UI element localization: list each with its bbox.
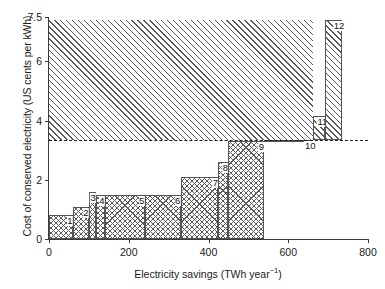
y-axis-tick — [45, 17, 49, 18]
x-axis-tick — [368, 239, 369, 243]
supply-curve-figure: Cost of conserved electricity (US cents … — [0, 0, 385, 289]
upper-hatched-region — [49, 20, 313, 140]
x-axis-title-tail: ) — [278, 268, 282, 280]
y-axis-tick-label: 6 — [36, 55, 42, 67]
x-axis-tick-label: 0 — [46, 246, 52, 258]
y-axis-title: Cost of conserved electricity (US cents … — [21, 6, 33, 246]
x-axis-title: Electricity savings (TWh year−1) — [48, 266, 368, 280]
y-axis-tick-label: 7.5 — [27, 11, 42, 23]
y-axis-tick-label: 2 — [36, 174, 42, 186]
bar-label-10: 10 — [305, 141, 317, 151]
reference-line-dashed — [49, 140, 368, 141]
x-axis-tick-label: 800 — [359, 246, 377, 258]
y-axis-tick — [45, 180, 49, 181]
y-axis-title-text: Cost of conserved electricity (US cents … — [21, 15, 33, 236]
x-axis-tick — [129, 239, 130, 243]
bar-segment-12 — [325, 20, 342, 140]
x-axis-title-base: Electricity savings (TWh year — [134, 268, 269, 280]
y-axis-tick-label: 4 — [36, 115, 42, 127]
x-axis-tick-label: 400 — [200, 246, 218, 258]
x-axis-tick — [209, 239, 210, 243]
plot-area: 123456789101112 02467.50200400600800 — [48, 17, 368, 240]
y-axis-tick — [45, 121, 49, 122]
x-axis-tick-label: 600 — [279, 246, 297, 258]
bar-segment-8 — [218, 162, 228, 239]
x-axis-tick — [49, 239, 50, 243]
bar-label-12: 12 — [333, 21, 345, 31]
x-axis-title-exponent: −1 — [270, 266, 279, 275]
y-axis-tick — [45, 61, 49, 62]
bar-segment-9 — [228, 141, 264, 239]
plot-inner: 123456789101112 — [49, 17, 368, 239]
y-axis-tick-label: 0 — [36, 233, 42, 245]
x-axis-tick — [288, 239, 289, 243]
x-axis-tick-label: 200 — [120, 246, 138, 258]
bar-label-9: 9 — [258, 142, 264, 152]
